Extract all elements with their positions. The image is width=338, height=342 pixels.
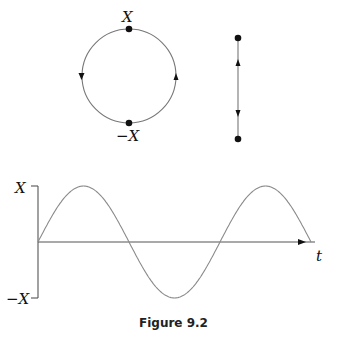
y-tick-X: X bbox=[14, 179, 27, 197]
label-bottom-neg-X: −X bbox=[116, 127, 141, 145]
y-tick-neg-X: −X bbox=[6, 290, 31, 308]
line-diagram bbox=[235, 35, 242, 143]
label-top-X: X bbox=[121, 8, 134, 26]
arrow-down-icon bbox=[79, 73, 85, 80]
x-axis-label: t bbox=[316, 247, 323, 265]
bottom-point bbox=[126, 120, 133, 127]
bottom-endpoint bbox=[235, 136, 242, 143]
top-endpoint bbox=[235, 35, 242, 42]
arrow-down-icon bbox=[236, 110, 241, 117]
arrow-up-icon bbox=[174, 73, 179, 80]
arrow-up-icon bbox=[236, 59, 241, 66]
top-point bbox=[126, 26, 133, 33]
sine-graph: X −X t bbox=[6, 179, 323, 308]
axis-arrow-icon bbox=[298, 239, 306, 245]
figure-caption: Figure 9.2 bbox=[139, 316, 208, 330]
circle-diagram: X −X bbox=[79, 8, 179, 145]
figure-canvas: X −X X −X t Figure 9.2 bbox=[0, 0, 338, 342]
